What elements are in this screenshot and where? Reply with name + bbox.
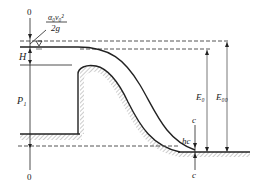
velocity-head-leader bbox=[30, 30, 46, 44]
arrow-hc-top bbox=[193, 143, 197, 148]
upstream-bed-hatch bbox=[20, 134, 82, 140]
downstream-bed-hatch bbox=[180, 152, 250, 157]
label-E0: E₀ bbox=[195, 92, 205, 102]
label-section-0-top: 0 bbox=[27, 7, 32, 17]
nappe-upper bbox=[78, 47, 195, 150]
label-velocity-head-num: α₀v₀² bbox=[48, 13, 64, 22]
label-E00: E₀₀ bbox=[215, 92, 228, 102]
arrow-E0-up bbox=[205, 50, 209, 55]
arrow-E0-down bbox=[205, 147, 209, 152]
weir-body-hatch bbox=[80, 65, 180, 157]
arrow-0-top bbox=[28, 34, 32, 39]
label-hc: hc bbox=[182, 136, 191, 146]
label-head-H: H bbox=[18, 51, 27, 62]
label-section-c-bottom: c bbox=[192, 170, 196, 180]
arrow-H-top bbox=[28, 48, 32, 53]
label-section-c-top: c bbox=[192, 115, 196, 125]
arrow-E00-up bbox=[225, 42, 229, 47]
weir-diagram: 0 0 α₀v₀² 2g H P₁ E₀ E₀₀ hc c c bbox=[0, 0, 267, 183]
arrow-E00-down bbox=[225, 147, 229, 152]
arrow-H-bot bbox=[28, 60, 32, 64]
water-level-icon bbox=[36, 41, 42, 46]
label-section-0-bottom: 0 bbox=[27, 172, 32, 182]
diagram-canvas: 0 0 α₀v₀² 2g H P₁ E₀ E₀₀ hc c c bbox=[0, 0, 267, 183]
label-weir-height-P1: P₁ bbox=[16, 95, 27, 106]
label-velocity-head-den: 2g bbox=[51, 23, 61, 33]
